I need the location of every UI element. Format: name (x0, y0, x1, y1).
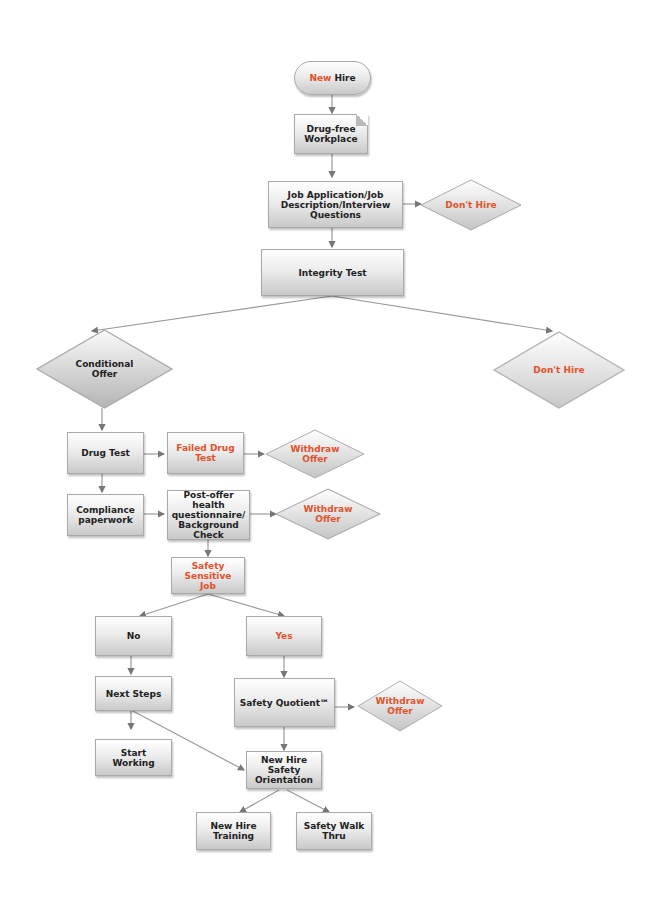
node-label: Withdraw Offer (375, 696, 425, 716)
safety-sensitive-job-node: Safety Sensitive Job (171, 557, 245, 594)
node-label: Drug Test (81, 448, 130, 458)
node-label: Don't Hire (445, 200, 496, 210)
withdraw-offer-decision-2: Withdraw Offer (276, 489, 380, 539)
failed-drug-test-node: Failed Drug Test (167, 432, 244, 474)
conditional-offer-decision: Conditional Offer (37, 330, 172, 408)
node-label: Post-offer health questionnaire/ Backgro… (171, 490, 246, 540)
integrity-test-node: Integrity Test (261, 249, 404, 296)
node-label: No (127, 631, 141, 641)
new-hire-safety-orientation-node: New Hire Safety Orientation (246, 751, 322, 789)
start-working-node: Start Working (95, 739, 172, 776)
node-label: Safety Quotient℠ (240, 698, 330, 708)
node-label: New Hire Safety Orientation (250, 755, 318, 785)
yes-node: Yes (246, 616, 322, 656)
node-label: Job Application/Job Description/Intervie… (272, 190, 399, 220)
node-label: Compliance paperwork (71, 505, 140, 525)
node-label: Conditional Offer (75, 359, 135, 379)
node-label: Failed Drug Test (176, 443, 236, 463)
node-label: Integrity Test (298, 268, 366, 278)
node-label: Start Working (99, 748, 168, 768)
new-hire-node: New Hire (294, 61, 371, 95)
node-label: Safety Walk Thru (302, 821, 367, 841)
node-label: Don't Hire (533, 365, 584, 375)
node-label: New Hire Training (206, 821, 261, 841)
next-steps-node: Next Steps (95, 676, 172, 711)
compliance-paperwork-node: Compliance paperwork (67, 494, 144, 536)
node-label: Withdraw Offer (303, 504, 353, 524)
new-hire-prefix: New (309, 73, 331, 83)
safety-quotient-node: Safety Quotient℠ (234, 678, 335, 727)
withdraw-offer-decision-3: Withdraw Offer (358, 681, 442, 731)
drug-free-workplace-node: Drug-free Workplace (294, 114, 368, 154)
withdraw-offer-decision-1: Withdraw Offer (266, 430, 364, 478)
no-node: No (95, 616, 172, 656)
node-label: Safety Sensitive Job (178, 561, 238, 591)
new-hire-suffix: Hire (331, 73, 355, 83)
post-offer-check-node: Post-offer health questionnaire/ Backgro… (167, 490, 250, 540)
document-fold-icon (356, 114, 368, 126)
new-hire-training-node: New Hire Training (196, 812, 271, 850)
node-label: Withdraw Offer (290, 444, 340, 464)
node-label: Yes (275, 631, 292, 641)
node-label: Drug-free Workplace (298, 124, 364, 144)
drug-test-node: Drug Test (67, 432, 144, 474)
safety-walk-thru-node: Safety Walk Thru (296, 812, 372, 850)
dont-hire-decision-2: Don't Hire (494, 332, 624, 408)
flowchart-canvas: New Hire Drug-free Workplace Job Applica… (0, 0, 664, 898)
node-label: Next Steps (106, 689, 162, 699)
job-application-node: Job Application/Job Description/Intervie… (268, 181, 403, 228)
dont-hire-decision-1: Don't Hire (421, 180, 521, 230)
